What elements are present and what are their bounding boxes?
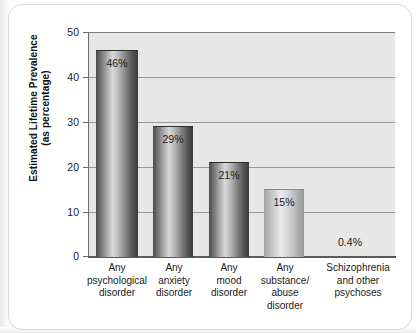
y-tick-label-50: 50 <box>55 27 79 37</box>
x-category-label-3-line-1: substance/ <box>250 275 320 288</box>
chart-figure: 50 40 30 20 10 0 Estimated Lifetime Prev… <box>0 0 416 333</box>
y-tick-label-40: 40 <box>55 72 79 82</box>
tick-mark-20 <box>83 167 88 168</box>
x-category-label-4-line-2: psychoses <box>312 287 404 300</box>
bar-any-mood-disorder: 21% <box>209 162 249 257</box>
bar-value-label-0: 46% <box>96 57 138 69</box>
x-category-label-4-line-1: and other <box>312 275 404 288</box>
tick-mark-50 <box>83 32 88 33</box>
y-tick-label-0: 0 <box>55 251 79 261</box>
tick-mark-10 <box>83 212 88 213</box>
x-category-label-4: Schizophrenia and other psychoses <box>312 262 404 300</box>
tick-mark-30 <box>83 122 88 123</box>
bar-value-label-1: 29% <box>153 133 193 145</box>
y-tick-label-30: 30 <box>55 117 79 127</box>
x-category-label-3-line-3: disorder <box>250 300 320 313</box>
bar-value-label-2: 21% <box>209 169 249 181</box>
y-axis-line <box>88 32 89 257</box>
bar-value-label-3: 15% <box>264 196 304 208</box>
y-tick-label-10: 10 <box>55 207 79 217</box>
bar-any-anxiety-disorder: 29% <box>153 126 193 257</box>
x-category-label-4-line-0: Schizophrenia <box>312 262 404 275</box>
bar-any-substance-abuse-disorder: 15% <box>264 189 304 257</box>
x-category-label-3: Any substance/ abuse disorder <box>250 262 320 312</box>
tick-mark-40 <box>83 77 88 78</box>
y-tick-label-20: 20 <box>55 162 79 172</box>
y-axis-title-line2: (as percentage) <box>40 28 52 188</box>
tick-mark-0 <box>83 256 88 257</box>
y-axis-title-line1: Estimated Lifetime Prevalence <box>28 28 40 188</box>
bar-value-label-4: 0.4% <box>320 236 380 248</box>
x-category-label-3-line-0: Any <box>250 262 320 275</box>
x-category-label-3-line-2: abuse <box>250 287 320 300</box>
gridline-50 <box>88 32 395 33</box>
bar-any-psychological-disorder: 46% <box>96 50 138 257</box>
y-axis-title: Estimated Lifetime Prevalence (as percen… <box>28 28 52 188</box>
